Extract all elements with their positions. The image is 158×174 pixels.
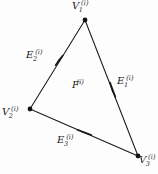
edge-e2-superscript: (i) [35, 48, 42, 56]
edge-label-e2: E2(i) [26, 50, 45, 60]
face-label-f: F(i) [72, 80, 87, 90]
vertex-label-v1: V1(i) [72, 1, 91, 11]
edge-label-e3: E3(i) [57, 135, 76, 145]
edge-e2-arrowhead [56, 56, 63, 66]
edge-orientation-arrows [56, 56, 116, 136]
face-f-superscript: (i) [77, 78, 84, 86]
vertex-v1-superscript: (i) [81, 0, 88, 7]
vertex-v2-dot [28, 107, 33, 112]
edge-label-e1: E1(i) [117, 76, 136, 86]
edge-e3-arrowhead [77, 130, 91, 135]
vertex-label-v3: V3(i) [139, 155, 158, 165]
vertex-label-v2: V2(i) [2, 107, 21, 117]
vertex-v2-superscript: (i) [11, 105, 18, 113]
edge-e1-arrowhead [110, 83, 115, 97]
vertex-v1-dot [83, 18, 88, 23]
vertex-v3-superscript: (i) [148, 153, 155, 161]
edge-e2-line [30, 20, 85, 109]
edge-e1-superscript: (i) [126, 74, 133, 82]
edge-e3-superscript: (i) [66, 133, 73, 141]
triangle-figure: V1(i) V2(i) V3(i) E1(i) E2(i) E3(i) F(i) [0, 0, 158, 174]
